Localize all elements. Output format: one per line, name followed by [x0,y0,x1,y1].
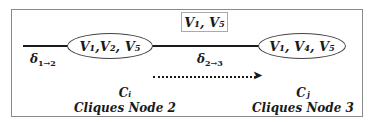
clique-node-3: V₁, V₄, V₅ [258,33,346,59]
separator-label: V₁, V₅ [184,15,225,30]
clique-i-variables: V₁,V₂, V₅ [80,39,141,54]
message-symbol: δ [30,52,38,66]
message-subscript: 1→2 [38,58,56,68]
message-delta-1-2: δ1→2 [30,52,56,68]
clique-node-2: V₁,V₂, V₅ [67,33,153,59]
clique-i-label: Cᵢ Cliques Node 2 [70,86,180,116]
message-delta-2-3: δ2→3 [197,52,223,68]
separator-box: V₁, V₅ [181,12,228,32]
clique-j-symbol: Cⱼ [248,86,358,101]
message-subscript: 2→3 [205,58,223,68]
clique-j-variables: V₁, V₄, V₅ [269,39,334,54]
clique-i-caption: Cliques Node 2 [70,101,180,116]
clique-i-symbol: Cᵢ [70,86,180,101]
incoming-edge [23,45,69,47]
message-arrow [153,76,256,78]
clique-j-label: Cⱼ Cliques Node 3 [248,86,358,116]
arrow-head-icon: ➤ [253,71,262,81]
clique-edge [150,45,260,47]
clique-j-caption: Cliques Node 3 [248,101,358,116]
message-symbol: δ [197,52,205,66]
